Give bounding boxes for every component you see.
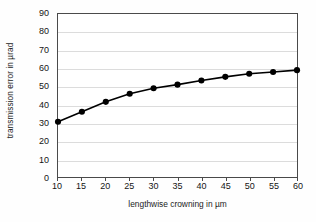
y-axis-label-text: transmission error in µrad [7, 42, 16, 138]
data-point-marker [270, 69, 276, 75]
y-axis-tick: 30 [39, 119, 49, 128]
x-axis-tick: 20 [100, 182, 110, 191]
y-axis-label: transmission error in µrad [2, 0, 20, 180]
data-point-marker [55, 119, 61, 125]
x-axis-tick: 55 [269, 182, 279, 191]
y-axis-tick: 40 [39, 100, 49, 109]
x-axis-tick: 35 [172, 182, 182, 191]
x-axis-tick: 50 [245, 182, 255, 191]
y-axis-tick: 0 [44, 174, 49, 183]
chart-figure: transmission error in µrad 0102030405060… [0, 0, 316, 222]
x-axis-label: lengthwise crowning in µm [57, 199, 298, 209]
y-axis-tick: 80 [39, 27, 49, 36]
y-axis-tick: 70 [39, 45, 49, 54]
plot-area [57, 13, 298, 178]
x-axis-tick: 30 [148, 182, 158, 191]
data-series [58, 14, 297, 177]
y-axis-tick: 50 [39, 82, 49, 91]
data-point-marker [198, 77, 204, 83]
data-point-marker [103, 99, 109, 105]
y-axis-tick: 60 [39, 64, 49, 73]
x-axis-tick: 45 [221, 182, 231, 191]
x-axis-tick: 25 [124, 182, 134, 191]
data-point-marker [79, 109, 85, 115]
series-line [58, 70, 297, 122]
data-point-marker [174, 82, 180, 88]
y-axis-tick: 90 [39, 9, 49, 18]
y-axis-tick: 20 [39, 137, 49, 146]
x-axis-tick: 60 [293, 182, 303, 191]
x-axis-tick: 40 [197, 182, 207, 191]
x-axis-tick: 10 [52, 182, 62, 191]
x-axis-tick: 15 [76, 182, 86, 191]
data-point-marker [151, 85, 157, 91]
y-axis-tick: 10 [39, 155, 49, 164]
data-point-marker [222, 74, 228, 80]
data-point-marker [127, 91, 133, 97]
data-point-marker [246, 71, 252, 77]
data-point-marker [294, 67, 300, 73]
x-axis-tick-labels: 1015202530354045505560 [57, 178, 298, 194]
y-axis-tick-labels: 0102030405060708090 [20, 13, 53, 178]
